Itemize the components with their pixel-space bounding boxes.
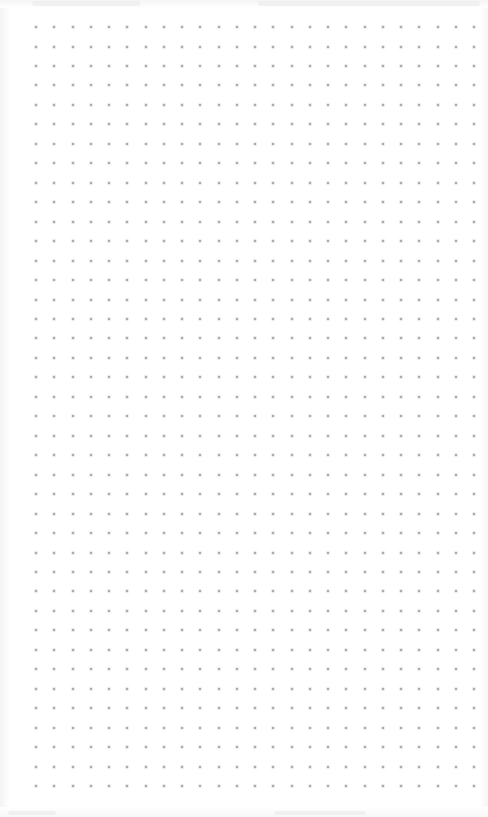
grid-dot: [345, 84, 347, 86]
grid-dot: [327, 610, 329, 612]
grid-dot: [437, 65, 439, 67]
grid-dot: [72, 513, 74, 515]
grid-dot: [473, 629, 475, 631]
grid-dot: [418, 143, 420, 145]
grid-dot: [163, 240, 165, 242]
grid-dot: [418, 357, 420, 359]
grid-dot: [72, 260, 74, 262]
grid-dot: [108, 493, 110, 495]
grid-dot: [364, 143, 366, 145]
grid-dot: [199, 260, 201, 262]
grid-dot: [108, 649, 110, 651]
dot-grid-canvas[interactable]: [0, 0, 488, 817]
grid-dot: [254, 513, 256, 515]
grid-dot: [291, 629, 293, 631]
grid-dot: [272, 746, 274, 748]
grid-dot: [145, 571, 147, 573]
grid-dot: [364, 435, 366, 437]
grid-dot: [72, 357, 74, 359]
grid-dot: [437, 415, 439, 417]
grid-dot: [291, 668, 293, 670]
grid-dot: [35, 65, 37, 67]
grid-dot: [254, 65, 256, 67]
grid-dot: [272, 65, 274, 67]
grid-dot: [473, 376, 475, 378]
grid-dot: [291, 182, 293, 184]
grid-dot: [437, 629, 439, 631]
grid-dot: [126, 357, 128, 359]
grid-dot: [291, 46, 293, 48]
grid-dot: [126, 240, 128, 242]
grid-dot: [437, 279, 439, 281]
grid-dot: [53, 415, 55, 417]
grid-dot: [236, 318, 238, 320]
grid-dot: [163, 610, 165, 612]
grid-dot: [218, 552, 220, 554]
grid-dot: [35, 590, 37, 592]
grid-dot: [254, 143, 256, 145]
grid-dot: [418, 688, 420, 690]
grid-dot: [400, 435, 402, 437]
grid-dot: [309, 46, 311, 48]
grid-dot: [418, 104, 420, 106]
grid-dot: [72, 493, 74, 495]
grid-dot: [400, 532, 402, 534]
grid-dot: [53, 552, 55, 554]
grid-dot: [382, 182, 384, 184]
grid-dot: [108, 260, 110, 262]
grid-dot: [126, 766, 128, 768]
grid-dot: [345, 318, 347, 320]
grid-dot: [272, 260, 274, 262]
grid-dot: [181, 299, 183, 301]
grid-dot: [382, 629, 384, 631]
grid-dot: [35, 201, 37, 203]
grid-dot: [126, 260, 128, 262]
grid-dot: [218, 162, 220, 164]
grid-dot: [218, 376, 220, 378]
grid-dot: [126, 571, 128, 573]
grid-dot: [163, 123, 165, 125]
grid-dot: [418, 590, 420, 592]
grid-dot: [145, 766, 147, 768]
grid-dot: [72, 532, 74, 534]
grid-dot: [90, 688, 92, 690]
grid-dot: [400, 104, 402, 106]
grid-dot: [364, 493, 366, 495]
grid-dot: [254, 299, 256, 301]
grid-dot: [108, 435, 110, 437]
grid-dot: [218, 513, 220, 515]
footer-left-text-placeholder: [8, 811, 56, 815]
grid-dot: [236, 454, 238, 456]
grid-dot: [35, 299, 37, 301]
grid-dot: [236, 143, 238, 145]
grid-dot: [90, 590, 92, 592]
grid-dot: [437, 727, 439, 729]
grid-dot: [126, 746, 128, 748]
grid-dot: [163, 590, 165, 592]
grid-dot: [418, 629, 420, 631]
grid-dot: [254, 474, 256, 476]
grid-dot: [35, 46, 37, 48]
grid-dot: [345, 668, 347, 670]
grid-dot: [163, 357, 165, 359]
grid-dot: [90, 746, 92, 748]
grid-dot: [272, 279, 274, 281]
grid-dot: [364, 182, 366, 184]
grid-dot: [126, 688, 128, 690]
grid-dot: [309, 182, 311, 184]
grid-dot: [473, 221, 475, 223]
grid-dot: [418, 240, 420, 242]
grid-dot: [364, 454, 366, 456]
grid-dot: [345, 396, 347, 398]
grid-dot: [218, 337, 220, 339]
grid-dot: [291, 65, 293, 67]
grid-dot: [90, 435, 92, 437]
grid-dot: [437, 46, 439, 48]
grid-dot: [163, 552, 165, 554]
grid-dot: [345, 766, 347, 768]
grid-dot: [400, 279, 402, 281]
grid-dot: [437, 26, 439, 28]
grid-dot: [90, 318, 92, 320]
grid-dot: [345, 123, 347, 125]
grid-dot: [72, 610, 74, 612]
